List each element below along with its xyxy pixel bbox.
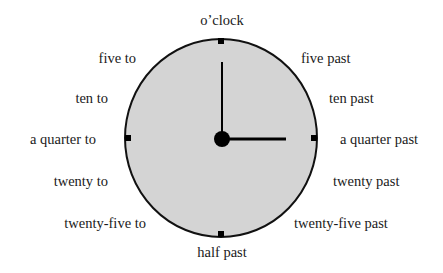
label-twenty-five-to: twenty-five to [64,215,146,231]
label-quarter-past: a quarter past [340,131,418,147]
label-oclock: o’clock [200,12,243,28]
tick-9 [125,135,131,141]
label-ten-past: ten past [329,90,374,106]
label-twenty-to: twenty to [54,173,108,189]
label-quarter-to: a quarter to [30,131,96,147]
label-half-past: half past [197,244,247,260]
tick-6 [218,231,224,237]
label-five-past: five past [301,50,351,66]
label-twenty-five-past: twenty-five past [294,215,388,231]
label-ten-to: ten to [75,90,108,106]
label-twenty-past: twenty past [333,173,399,189]
tick-12 [218,38,224,44]
tick-3 [311,135,317,141]
label-five-to: five to [99,50,136,66]
center-pivot [214,131,230,147]
